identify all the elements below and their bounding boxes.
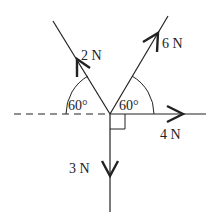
force-diagram: 60° 60° 2 N 6 N 4 N 3 N [0,0,219,222]
force-label-6n: 6 N [162,36,183,51]
right-angle-marker [110,114,125,129]
force-label-2n: 2 N [81,48,102,63]
angle-label-left: 60° [68,98,88,113]
force-label-4n: 4 N [160,127,181,142]
force-label-3n: 3 N [69,161,90,176]
angle-label-right: 60° [119,98,139,113]
